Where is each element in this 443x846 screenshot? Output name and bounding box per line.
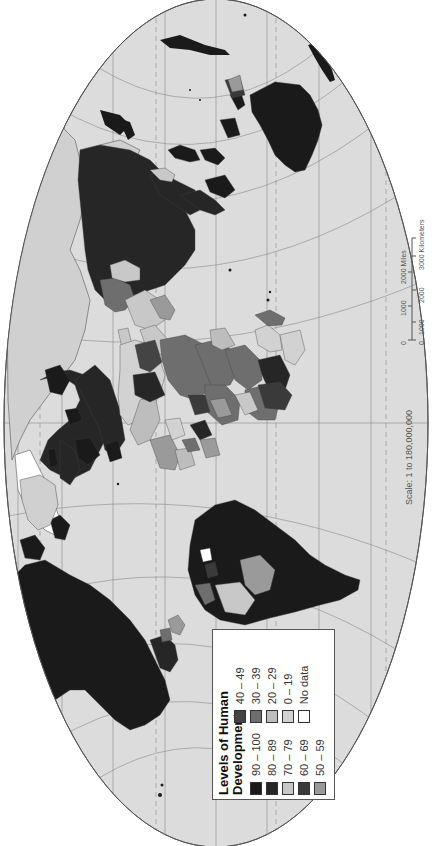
legend-item: 30 – 39 bbox=[249, 666, 263, 724]
swatch-60-69 bbox=[298, 782, 310, 795]
legend-item: 60 – 69 bbox=[297, 733, 311, 795]
swatch-no-data bbox=[298, 710, 310, 723]
legend-item: 40 – 49 bbox=[233, 666, 247, 724]
swatch-0-19 bbox=[282, 710, 294, 723]
scale-km-0: 0 bbox=[418, 341, 425, 345]
swatch-50-59 bbox=[314, 782, 326, 795]
legend-item: 0 – 19 bbox=[281, 666, 295, 724]
scale-km-2000: 2000 bbox=[418, 287, 425, 303]
swatch-40-49 bbox=[234, 710, 246, 723]
legend-item: 70 – 79 bbox=[281, 733, 295, 795]
legend-item: No data bbox=[297, 666, 311, 724]
legend-column-2: 40 – 49 30 – 39 20 – 29 0 – 19 No data bbox=[233, 666, 327, 724]
legend-column-1: 90 – 100 80 – 89 70 – 79 60 – 69 50 – 59 bbox=[249, 733, 327, 795]
scale-miles-2000: 2000 Miles bbox=[400, 250, 407, 284]
scale-km-3000: 3000 Kilometers bbox=[418, 219, 425, 270]
scale-text: Scale: 1 to 180,000,000 bbox=[404, 305, 418, 505]
scale-miles-1000: 1000 bbox=[400, 300, 407, 316]
swatch-70-79 bbox=[282, 782, 294, 795]
scale-km-1000: 1000 bbox=[418, 319, 425, 335]
swatch-30-39 bbox=[250, 710, 262, 723]
scale-miles-0: 0 bbox=[400, 341, 407, 345]
swatch-90-100 bbox=[250, 782, 262, 795]
legend: Levels of Human Development 90 – 100 80 … bbox=[212, 629, 335, 800]
legend-item: 80 – 89 bbox=[265, 733, 279, 795]
swatch-80-89 bbox=[266, 782, 278, 795]
legend-item: 90 – 100 bbox=[249, 733, 263, 795]
legend-item: 20 – 29 bbox=[265, 666, 279, 724]
swatch-20-29 bbox=[266, 710, 278, 723]
legend-item: 50 – 59 bbox=[313, 733, 327, 795]
